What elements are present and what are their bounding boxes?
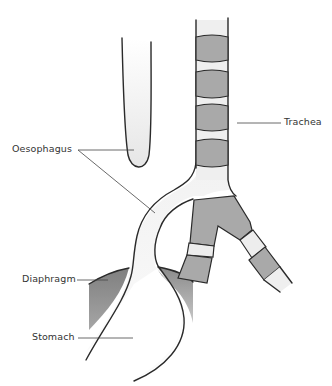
label-trachea: Trachea [284,116,322,127]
trachea [178,18,292,292]
anatomy-diagram [0,0,332,386]
bronchi [178,196,292,292]
label-oesophagus: Oesophagus [12,143,72,154]
upper-oesophagus [122,38,151,167]
label-stomach: Stomach [32,331,75,342]
label-diaphragm: Diaphragm [22,273,76,284]
